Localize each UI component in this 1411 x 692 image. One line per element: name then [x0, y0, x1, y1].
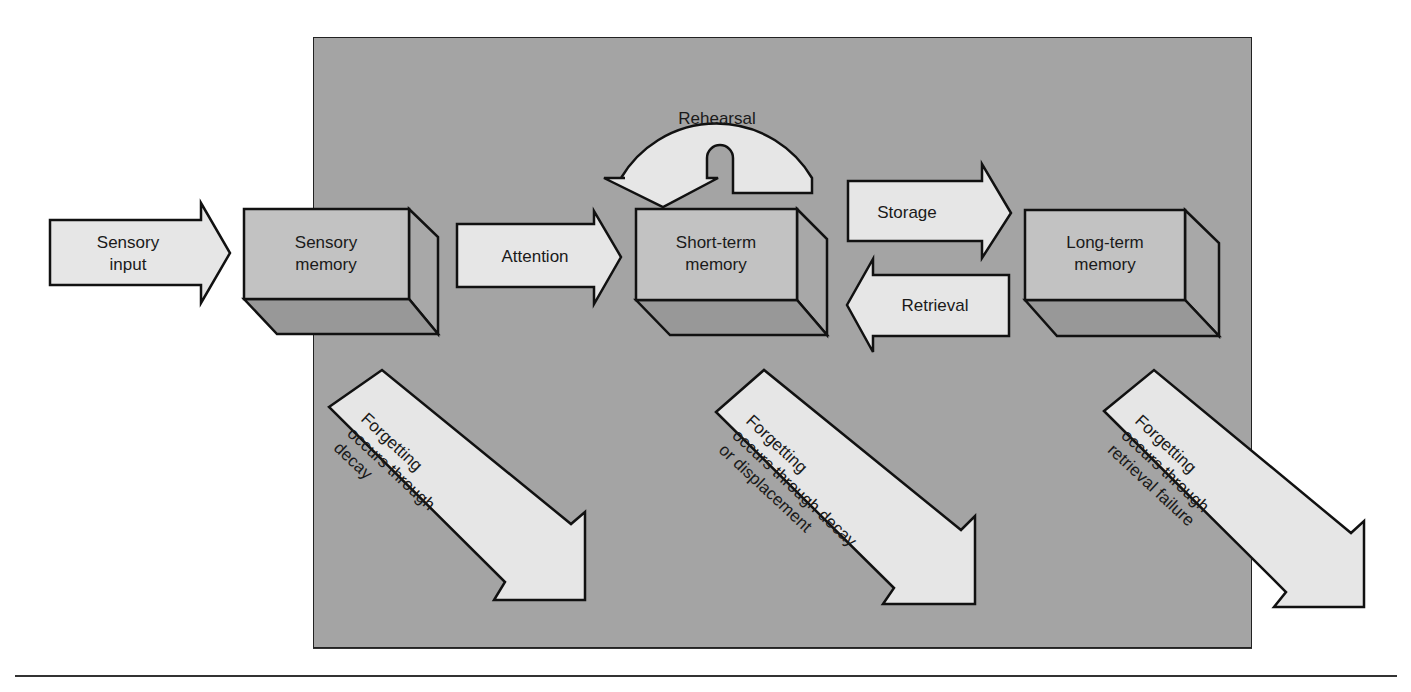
short-term-memory-label-1: Short-term: [676, 233, 756, 252]
storage-label: Storage: [877, 203, 937, 222]
forgetting-decay-displacement-arrow: Forgetting occurs through decay or displ…: [715, 370, 975, 604]
sensory-memory-label-1: Sensory: [295, 233, 358, 252]
long-term-memory-label-2: memory: [1074, 255, 1136, 274]
short-term-memory-label-2: memory: [685, 255, 747, 274]
forgetting-retrieval-failure-arrow: Forgetting occurs through retrieval fail…: [1104, 370, 1364, 607]
retrieval-arrow: Retrieval: [847, 259, 1009, 352]
long-term-memory-label-1: Long-term: [1066, 233, 1143, 252]
attention-arrow: Attention: [457, 211, 621, 304]
sensory-memory-label-2: memory: [295, 255, 357, 274]
short-term-memory-box: Short-term memory: [636, 209, 827, 335]
sensory-memory-box: Sensory memory: [244, 209, 438, 334]
rehearsal-arrow: Rehearsal: [604, 109, 812, 207]
sensory-input-label-1: Sensory: [97, 233, 160, 252]
rehearsal-label: Rehearsal: [678, 109, 756, 128]
sensory-input-arrow: Sensory input: [50, 203, 230, 303]
attention-label: Attention: [501, 247, 568, 266]
storage-arrow: Storage: [848, 164, 1011, 258]
forgetting-decay-arrow: Forgetting occurs through decay: [329, 370, 585, 600]
long-term-memory-box: Long-term memory: [1025, 210, 1219, 336]
memory-model-diagram: .arrow { fill: #e6e6e6; stroke: #111; st…: [0, 0, 1411, 692]
retrieval-label: Retrieval: [901, 296, 968, 315]
sensory-input-label-2: input: [110, 255, 147, 274]
